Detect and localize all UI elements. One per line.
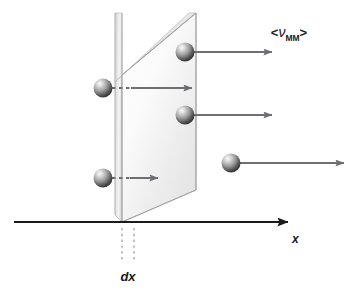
velocity-symbol: ν [278, 24, 285, 40]
dx-guides [122, 228, 134, 262]
molecule-top-inside [176, 43, 273, 62]
velocity-close-bracket: > [300, 25, 308, 40]
sphere-right-outside [222, 154, 241, 173]
sphere-left-upper [94, 79, 113, 98]
sphere-left-lower [94, 169, 113, 188]
sphere-top-inside [176, 43, 195, 62]
velocity-subscript: MM [285, 33, 299, 43]
x-axis-label: x [291, 232, 300, 246]
molecule-right-outside [222, 154, 345, 173]
velocity-label: <νMM> [271, 24, 308, 43]
diagram-canvas: <νMM> x dx [0, 0, 357, 297]
molecule-mid-inside [176, 106, 273, 125]
dx-label: dx [120, 269, 136, 284]
molecular-flux-diagram: <νMM> x dx [0, 0, 357, 297]
sphere-mid-inside [176, 106, 195, 125]
slab-side-face [115, 13, 122, 222]
